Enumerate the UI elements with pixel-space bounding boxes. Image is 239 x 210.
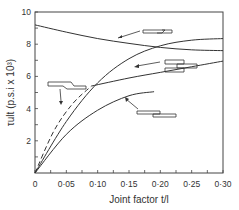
series-line bbox=[35, 25, 223, 51]
arrow-head-icon bbox=[59, 101, 63, 105]
x-axis-title: Joint factor t/l bbox=[109, 194, 168, 205]
plot-frame bbox=[35, 12, 223, 173]
x-tick-label: 0·10 bbox=[89, 179, 106, 189]
single-lap-joint-sketch bbox=[137, 111, 176, 117]
x-tick-label: 0·20 bbox=[152, 179, 169, 189]
x-tick-label: 0·25 bbox=[183, 179, 200, 189]
arrow bbox=[60, 89, 61, 101]
chart: 00·050·100·150·200·250·30246810Joint fac… bbox=[0, 0, 239, 210]
y-axis-title: τult (p.s.i x 10³) bbox=[5, 59, 16, 126]
series-line bbox=[91, 61, 223, 86]
y-tick-label: 4 bbox=[26, 104, 31, 114]
arrow bbox=[126, 99, 138, 109]
stepped-lap-joint-sketch bbox=[48, 82, 86, 89]
x-tick-label: 0·05 bbox=[58, 179, 75, 189]
x-tick-label: 0 bbox=[33, 179, 38, 189]
y-tick-label: 6 bbox=[26, 71, 31, 81]
y-tick-label: 2 bbox=[26, 136, 31, 146]
y-tick-label: 8 bbox=[26, 39, 31, 49]
x-tick-label: 0·15 bbox=[120, 179, 137, 189]
y-tick-label: 10 bbox=[22, 7, 32, 17]
arrow bbox=[137, 62, 160, 66]
series-line bbox=[35, 39, 223, 173]
arrow-head-icon bbox=[134, 64, 139, 68]
x-tick-label: 0·30 bbox=[214, 179, 231, 189]
scarf-joint-sketch bbox=[143, 30, 172, 33]
